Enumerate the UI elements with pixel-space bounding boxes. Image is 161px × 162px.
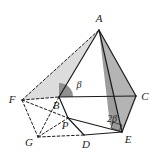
edge-D-E [84,132,122,135]
edge-G-D [38,135,84,137]
angle-label-two-beta: 2β [107,113,117,124]
vertex-label-P: P [61,119,69,131]
vertex-label-A: A [95,12,103,24]
figure-canvas: A B C D E F G P β 2β [0,0,161,162]
vertex-label-G: G [25,136,33,148]
angle-label-beta: β [76,79,82,90]
vertex-label-F: F [8,93,16,105]
vertex-label-B: B [53,99,60,111]
vertex-label-E: E [124,133,132,145]
geometry-figure: A B C D E F G P β 2β [0,0,161,162]
vertex-label-C: C [141,90,149,102]
vertex-label-D: D [81,138,90,150]
